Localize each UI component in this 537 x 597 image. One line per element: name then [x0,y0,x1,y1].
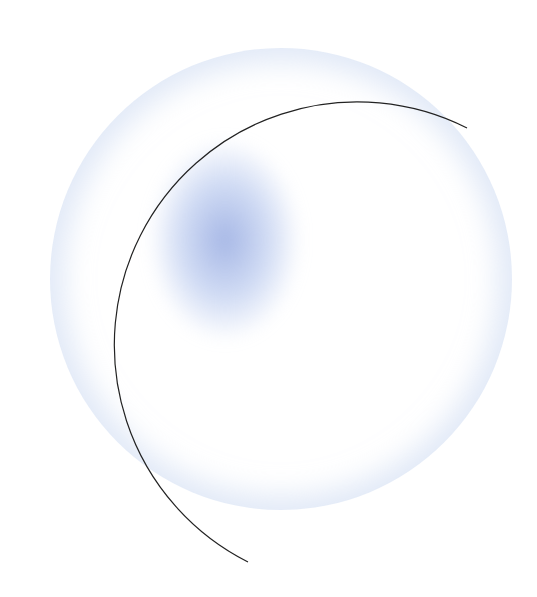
outline-arc [0,0,537,597]
